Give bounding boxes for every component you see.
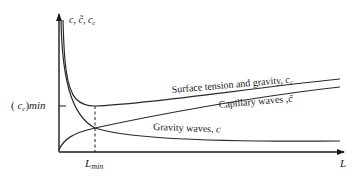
lmin-label: Lmin [84,157,103,171]
wave-speed-diagram: c, c̃, cc L ( cc)min Lmin Surface tensio… [0,0,358,178]
capillary-waves-curve [59,87,340,150]
surface-tension-gravity-curve [63,20,340,106]
y-axis-label: c, c̃, cc [69,14,96,27]
gravity-waves-label: Gravity waves, c [153,121,221,134]
x-axis-label: L [339,157,346,169]
min-value-label: ( cc)min [11,99,46,113]
capillary-waves-label: Capillary waves ,c̃ [218,93,293,110]
